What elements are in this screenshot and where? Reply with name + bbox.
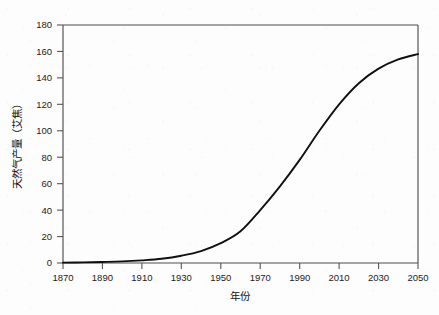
x-tick-label-1890: 1890 <box>92 272 113 283</box>
x-axis-title: 年份 <box>230 290 251 302</box>
y-tick-label-80: 80 <box>41 152 52 163</box>
x-tick-label-1930: 1930 <box>171 272 192 283</box>
x-tick-label-2050: 2050 <box>407 272 428 283</box>
natural-gas-production-line-chart: 0 20 40 60 80 100 120 140 160 180 1870 <box>0 0 439 315</box>
y-tick-label-100: 100 <box>36 125 52 136</box>
plot-axes <box>63 25 418 263</box>
x-tick-label-2030: 2030 <box>368 272 389 283</box>
y-tick-label-160: 160 <box>36 46 52 57</box>
chart-screenshot: 0 20 40 60 80 100 120 140 160 180 1870 <box>0 0 439 315</box>
x-tick-label-1970: 1970 <box>250 272 271 283</box>
series-line-natural-gas-production <box>63 54 418 263</box>
x-tick-label-1950: 1950 <box>210 272 231 283</box>
y-axis-ticks: 0 20 40 60 80 100 120 140 160 180 <box>36 19 63 268</box>
y-tick-label-60: 60 <box>41 178 52 189</box>
y-tick-label-0: 0 <box>47 257 52 268</box>
x-tick-label-1990: 1990 <box>289 272 310 283</box>
y-tick-label-20: 20 <box>41 231 52 242</box>
y-tick-label-120: 120 <box>36 99 52 110</box>
x-tick-label-1870: 1870 <box>52 272 73 283</box>
y-axis-title: 天然气产量（艾焦） <box>11 99 23 189</box>
x-tick-label-2010: 2010 <box>329 272 350 283</box>
x-tick-label-1910: 1910 <box>131 272 152 283</box>
x-axis-ticks: 1870 1890 1910 1930 1950 1970 1990 2010 … <box>52 263 428 283</box>
y-tick-label-180: 180 <box>36 19 52 30</box>
y-tick-label-140: 140 <box>36 72 52 83</box>
y-tick-label-40: 40 <box>41 205 52 216</box>
